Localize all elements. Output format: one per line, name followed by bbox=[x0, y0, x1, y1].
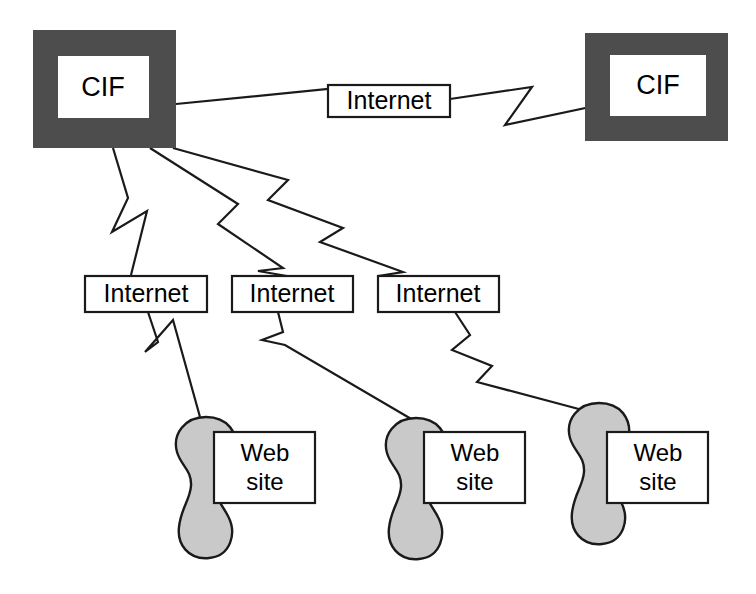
node-internet-top[interactable]: Internet bbox=[328, 85, 450, 117]
node-internet-mid-1[interactable]: Internet bbox=[85, 276, 207, 312]
network-diagram: CIF CIF Internet Internet Internet Inter… bbox=[0, 0, 756, 594]
edge-cif-left-to-internet-mid-2 bbox=[150, 148, 287, 276]
edge-cif-left-to-internet-mid-3 bbox=[173, 148, 437, 277]
website-1-label-line2: site bbox=[246, 468, 283, 495]
edge-internet-mid-1-to-website-1 bbox=[145, 312, 200, 417]
edge-layer bbox=[112, 86, 628, 420]
edge-internet-mid-2-to-website-2 bbox=[262, 312, 413, 420]
node-cif-right[interactable]: CIF bbox=[585, 33, 728, 141]
edge-internet-mid-3-to-website-3 bbox=[452, 312, 590, 412]
diagram-canvas: CIF CIF Internet Internet Internet Inter… bbox=[0, 0, 756, 594]
node-website-3[interactable]: Web site bbox=[569, 403, 708, 544]
internet-mid-1-label: Internet bbox=[104, 279, 189, 307]
internet-mid-2-label: Internet bbox=[250, 279, 335, 307]
website-2-label-line2: site bbox=[456, 468, 493, 495]
website-3-label-line2: site bbox=[639, 468, 676, 495]
cif-right-label: CIF bbox=[636, 70, 680, 100]
internet-top-label: Internet bbox=[347, 86, 432, 114]
edge-cif-left-to-internet-mid-1 bbox=[112, 148, 147, 275]
node-website-2[interactable]: Web site bbox=[386, 418, 525, 559]
node-internet-mid-3[interactable]: Internet bbox=[378, 276, 499, 312]
node-internet-mid-2[interactable]: Internet bbox=[232, 276, 353, 312]
website-2-label-line1: Web bbox=[451, 439, 500, 466]
node-cif-left[interactable]: CIF bbox=[33, 30, 176, 148]
cif-left-label: CIF bbox=[81, 72, 125, 102]
website-1-label-line1: Web bbox=[241, 439, 290, 466]
internet-mid-3-label: Internet bbox=[396, 279, 481, 307]
website-3-label-line1: Web bbox=[634, 439, 683, 466]
node-website-1[interactable]: Web site bbox=[176, 417, 315, 558]
